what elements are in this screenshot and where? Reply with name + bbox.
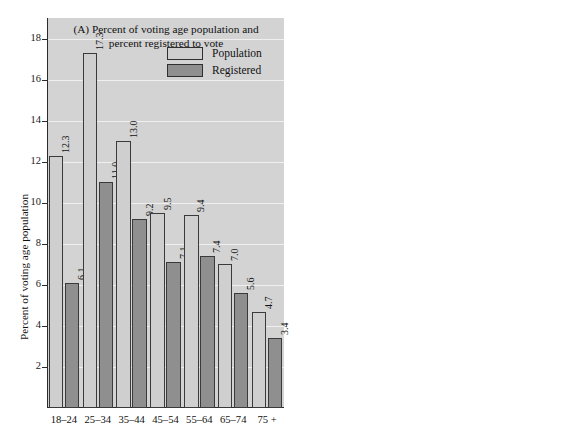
y-axis-tick xyxy=(42,367,47,369)
population-bar[interactable] xyxy=(184,215,199,408)
panel-a-legend: Population Registered xyxy=(167,47,262,81)
y-axis-tick-label: 14 xyxy=(9,115,41,126)
y-axis-tick-label: 12 xyxy=(9,156,41,167)
y-axis-tick xyxy=(42,326,47,328)
registered-bar[interactable] xyxy=(200,256,215,408)
y-axis-tick xyxy=(42,162,47,164)
bar-value-label: 7.4 xyxy=(212,241,222,254)
y-axis-tick-label: 16 xyxy=(9,74,41,85)
y-axis-tick xyxy=(42,80,47,82)
bar-value-label: 5.6 xyxy=(246,278,256,291)
x-axis-tick-label: 75 + xyxy=(241,414,293,425)
population-bar[interactable] xyxy=(218,264,233,408)
panel-b: (B) Population shifts reflected in elect… xyxy=(290,0,574,444)
bar-value-label: 9.4 xyxy=(196,200,206,213)
y-axis-tick xyxy=(42,285,47,287)
y-axis-tick-label: 10 xyxy=(9,197,41,208)
bar-value-label: 3.4 xyxy=(280,323,290,336)
population-bar[interactable] xyxy=(83,53,98,408)
registered-bar[interactable] xyxy=(268,338,283,408)
population-bar[interactable] xyxy=(252,312,267,408)
population-bar[interactable] xyxy=(49,156,64,408)
panel-a: (A) Percent of voting age population and… xyxy=(0,0,290,444)
registered-bar[interactable] xyxy=(65,283,80,408)
bar-value-label: 17.3 xyxy=(95,32,105,50)
y-axis-tick-label: 4 xyxy=(9,320,41,331)
panel-a-y-axis-title: Percent of voting age population xyxy=(18,194,30,340)
registered-bar[interactable] xyxy=(99,182,114,408)
bar-value-label: 7.0 xyxy=(230,249,240,262)
y-axis-tick xyxy=(42,244,47,246)
bar-value-label: 12.3 xyxy=(61,135,71,153)
registered-swatch-icon xyxy=(167,64,203,77)
figure-root: (A) Percent of voting age population and… xyxy=(0,0,574,444)
y-axis-tick-label: 6 xyxy=(9,279,41,290)
y-axis-tick-label: 8 xyxy=(9,238,41,249)
panel-a-title: (A) Percent of voting age population and… xyxy=(52,22,280,50)
bar-value-label: 13.0 xyxy=(129,121,139,139)
registered-bar[interactable] xyxy=(166,262,181,408)
population-bar[interactable] xyxy=(150,213,165,408)
legend-entry-registered: Registered xyxy=(167,64,262,77)
bar-value-label: 9.5 xyxy=(163,198,173,211)
population-bar[interactable] xyxy=(116,141,131,408)
y-axis-tick-label: 2 xyxy=(9,361,41,372)
y-axis-tick xyxy=(42,39,47,41)
legend-entry-population: Population xyxy=(167,47,262,60)
registered-bar[interactable] xyxy=(132,219,147,408)
legend-label-population: Population xyxy=(212,48,262,60)
bar-value-label: 4.7 xyxy=(264,296,274,309)
population-swatch-icon xyxy=(167,47,203,60)
y-axis-tick xyxy=(42,203,47,205)
y-axis-tick xyxy=(42,121,47,123)
registered-bar[interactable] xyxy=(234,293,249,408)
legend-label-registered: Registered xyxy=(212,65,261,77)
y-axis-tick-label: 18 xyxy=(9,33,41,44)
